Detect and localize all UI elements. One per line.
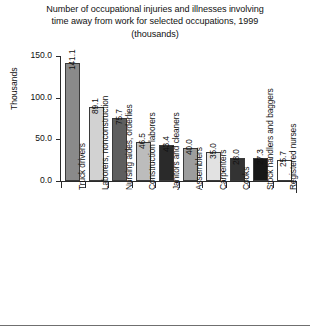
bar-value-label: 40.0 [184, 139, 194, 155]
chart-title-line-3: (thousands) [0, 28, 310, 40]
chart-title: Number of occupational injuries and illn… [0, 3, 310, 40]
x-axis-category-label: Laborers, nonconstruction [100, 96, 110, 190]
x-axis-tick [61, 182, 62, 188]
y-axis-tick-label: 50.0 [8, 133, 52, 143]
bar-value-label: 141.1 [67, 50, 77, 70]
x-axis-category-label: Janitors and cleaners [171, 112, 181, 190]
page-bottom-rule [0, 325, 310, 326]
y-axis-tick-label: 100.0 [8, 92, 52, 102]
x-axis-category-label: Cooks [241, 167, 251, 190]
bar-value-label: 27.3 [255, 149, 265, 165]
bar-value-label: 28.0 [231, 149, 241, 165]
x-axis-category-label: Stock handlers and baggers [265, 88, 275, 190]
bar-value-label: 43.4 [161, 136, 171, 152]
bar-value-label: 75.7 [114, 109, 124, 125]
bar-value-label: 89.1 [90, 98, 100, 114]
x-axis-category-label: Assemblers [194, 147, 204, 190]
y-axis-tick-label: 0.0 [8, 175, 52, 185]
x-axis-category-label: Truck drivers [77, 143, 87, 190]
chart-title-line-1: Number of occupational injuries and illn… [0, 3, 310, 15]
bar-value-label: 35.0 [208, 143, 218, 159]
y-axis-tick-label: 150.0 [8, 50, 52, 60]
chart-title-line-2: time away from work for selected occupat… [0, 15, 310, 27]
x-axis-category-label: Construction laborers [147, 113, 157, 191]
x-axis-category-label: Registered nurses [288, 124, 298, 190]
bar-chart-figure: Number of occupational injuries and illn… [0, 0, 310, 334]
bar-value-label: 25.7 [278, 151, 288, 167]
bar-value-label: 46.5 [137, 133, 147, 149]
x-axis-category-label: Carpenters [218, 150, 228, 190]
x-axis-category-label: Nursing aides, orderlies [124, 104, 134, 190]
